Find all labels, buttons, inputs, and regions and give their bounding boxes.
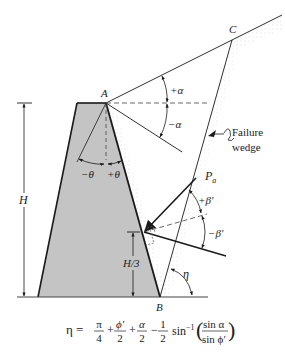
eq-t3-den: 2 <box>139 332 145 344</box>
minus-beta-arc <box>202 216 205 248</box>
eq-t2-den: 2 <box>117 332 123 344</box>
minus-alpha-arc <box>160 104 167 137</box>
point-A-label: A <box>100 87 108 99</box>
eta-label: η <box>183 267 189 281</box>
minus-beta-label: −β′ <box>208 227 224 239</box>
eq-op3: − <box>151 323 158 337</box>
eq-close-paren: ) <box>228 317 235 342</box>
point-B-label: B <box>156 301 163 313</box>
plus-alpha-label: +α <box>170 84 183 96</box>
eq-t1-den: 4 <box>96 332 102 344</box>
eq-arg-num: sin α <box>203 318 225 330</box>
plus-beta-label: +β′ <box>198 194 214 206</box>
failure-wedge-label-line1: Failure <box>232 126 263 138</box>
eq-func: sin−1 <box>172 323 195 338</box>
eq-op1: + <box>107 323 114 337</box>
eq-lhs: η = <box>66 322 83 337</box>
H3-label: H/3 <box>122 257 140 269</box>
failure-wedge-diagram: +α −α A C B −θ +θ H H/3 Failure wedge Pa… <box>0 0 285 357</box>
eq-arg-den: sin ϕ′ <box>202 333 226 345</box>
plus-alpha-arc <box>162 76 167 102</box>
eq-t4-den: 2 <box>160 332 166 344</box>
eq-t1-num: π <box>96 318 102 330</box>
failure-plane-line <box>160 40 232 297</box>
eq-t4-num: 1 <box>160 318 166 330</box>
backfill-surface-line <box>106 15 282 103</box>
minus-alpha-label: −α <box>168 118 181 130</box>
eq-t2-num: ϕ′ <box>116 318 125 330</box>
point-C-label: C <box>229 23 237 35</box>
failure-wedge-label-line2: wedge <box>232 141 261 153</box>
eta-equation: η = π 4 + ϕ′ 2 + α 2 − 1 2 sin−1 ( sin α… <box>66 317 235 345</box>
plus-theta-label: +θ <box>107 168 120 180</box>
minus-theta-label: −θ <box>81 168 94 180</box>
Pa-label: Pa <box>204 169 216 185</box>
eq-op2: + <box>129 323 136 337</box>
H-label: H <box>18 193 29 207</box>
eq-t3-num: α <box>139 318 145 330</box>
